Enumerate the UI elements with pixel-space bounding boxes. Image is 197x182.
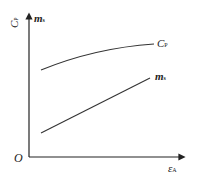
cp-label: CP xyxy=(157,38,168,49)
y-right-label: ms xyxy=(34,13,45,24)
plot-area xyxy=(0,0,197,182)
ms-label: ms xyxy=(155,71,166,82)
ms-line xyxy=(41,78,150,133)
origin-label: O xyxy=(14,152,23,164)
x-label: εA xyxy=(168,163,177,174)
y-left-label: CP xyxy=(9,17,20,28)
cp-curve xyxy=(41,44,154,70)
diagram: CP ms O εA CP ms xyxy=(0,0,197,182)
